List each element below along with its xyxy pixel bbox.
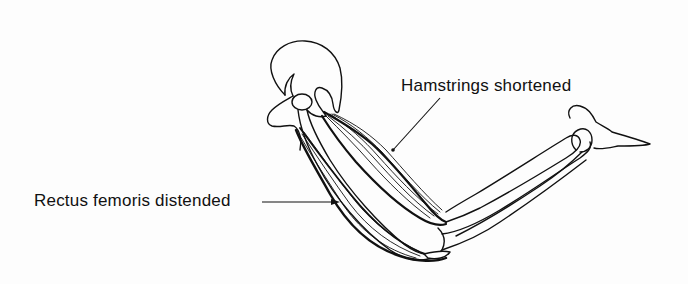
leg-illustration — [0, 0, 688, 284]
rectus-femoris-muscle — [296, 130, 446, 261]
hamstrings-leader-line — [393, 98, 440, 150]
pelvis-ischium — [268, 96, 301, 150]
pelvis-crest-notch — [285, 74, 294, 96]
talus — [572, 129, 592, 152]
hamstrings-pointer-dot — [391, 148, 395, 152]
femoral-head — [292, 94, 312, 110]
rectus-femoris-label: Rectus femoris distended — [34, 191, 231, 211]
pelvis-ilium — [271, 41, 342, 116]
hamstrings-label: Hamstrings shortened — [401, 76, 571, 96]
anatomy-diagram: Hamstrings shortened Rectus femoris dist… — [0, 0, 688, 284]
tibia — [446, 135, 580, 222]
